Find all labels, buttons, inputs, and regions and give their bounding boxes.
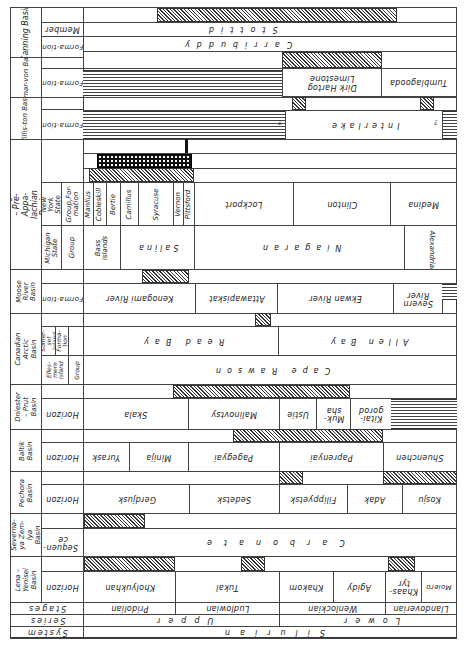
pechora-blank [41,471,84,485]
unit-filippyetsk: Filippyetsk [279,484,348,514]
unit-read-bay: Read Bay [83,326,279,356]
lacuna-lines [83,111,286,139]
canning-blank [41,7,84,23]
unit-bertie: Bertie [106,182,121,226]
baltic-sub: Horizon [41,442,84,472]
hiatus-hatch [282,52,382,68]
lacuna-lines [442,284,457,300]
unit-sedetsk: Sedetsk [189,484,280,514]
lacuna-lines [83,70,283,96]
hiatus-hatch [89,168,194,182]
basin-label-lena: Lena – Yenisei Basin [10,556,42,603]
severnaya-blank [41,513,84,529]
unit-muksha: Muk-sha [316,398,351,430]
unit-interlake: Interlake [285,110,443,140]
unit-shuenchen: Shuenchen [383,442,457,472]
lena-blank [41,556,84,572]
canning-sub-member: Member [41,22,84,37]
unit-attawapiskat: Attawapiskat [195,283,278,314]
marker-bar [185,139,188,154]
unit-cape-rawson: Cape Rawson [83,355,457,385]
unit-tumblagooda: Tumblagooda [381,68,457,97]
hiatus-hatch [255,313,271,326]
lacuna-lines [442,111,457,139]
williston-gap-row [83,97,457,111]
basin-label-carnarvon: Carnar-von Basin [10,57,42,98]
ny-state-label: New York State [41,182,62,226]
arctic-blank [41,313,84,327]
unit-kosju: Kosju [402,484,457,514]
unit-severn-river: Severn River [393,283,443,314]
unit-alexandrian: Alexandrian [404,225,457,270]
hiatus-hatch [241,557,265,571]
basin-label-moose: Moose River Basin [10,269,42,314]
hiatus-hatch [84,557,175,571]
unit-yurask: Yurask [83,442,130,472]
mi-col-label: Group [61,225,84,270]
carnarvon-gap-row [83,51,457,69]
unit-khakom: Khakom [279,571,334,603]
somerset-label: Somer-set Island [41,326,56,356]
severnaya-sub: Sequen-ce [41,528,84,557]
basin-label-severnaya: Severna-ya Zem-lya Basin [10,513,42,557]
williston-sub: Forma-tion [41,109,84,140]
unit-skala: Skala [83,398,189,430]
system-silurian: Silurian [83,626,457,639]
unit-ekwan-river: Ekwan River [277,283,394,314]
system-label: System [10,626,84,639]
uncertain-mark: ? [434,118,438,126]
michigan-blank [41,139,84,183]
unit-khaastyr: Khaas-tyr [385,571,422,603]
unit-ustie: Ustie [279,398,317,430]
hiatus-hatch [142,270,189,283]
unit-salina: Salina [120,225,195,270]
unit-pagegyai: Pagegyai [188,442,280,472]
unit-cobleskill: Cobleskill [93,182,107,226]
canning-sub-formation: Forma-tion [41,36,84,58]
hiatus-hatch [292,97,306,110]
basin-label-canning: Canning Basin [10,7,42,58]
unit-syracuse: Syracuse [138,182,174,226]
unit-allen-bay: Allen Bay [278,326,457,356]
hiatus-hatch [420,97,434,110]
unit-adak: Adak [347,484,403,514]
unit-agidy: Agidy [333,571,386,603]
hiatus-hatch [157,8,397,22]
dniester-blank [41,384,84,399]
unit-bass-islands: Bass Islands [83,225,121,270]
evaporite-pattern [97,154,192,168]
unit-tukal: Tukal [175,571,280,603]
hiatus-hatch [279,471,303,484]
uncertain-mark: ? [278,118,282,126]
baltic-blank [41,429,84,443]
unit-paprenyai: Paprenyai [279,442,384,472]
hiatus-hatch [84,514,145,528]
lena-sub: Horizon [41,571,84,603]
canning-member-row: Stottid [83,22,457,37]
carnarvon-sub: Forma-tion [41,68,84,98]
hiatus-hatch [173,385,350,398]
mi-state-label: Michigan State [41,225,62,270]
hiatus-hatch [388,557,415,571]
hiatus-hatch [383,471,457,484]
unit-minija: Minija [129,442,189,472]
pechora-sub: Horizon [41,484,84,514]
unit-malinovtsy: Malinovtsy [188,398,280,430]
moose-blank [41,269,84,284]
basin-label-williston: Willis-ton Basin [10,97,42,140]
unit-kitaigorod: Kitai-gorod [350,398,392,430]
unit-kholyukhan: Kholyukhan [83,571,176,603]
unit-clinton: Clinton [293,182,391,226]
unit-gerdjusk: Gerdjusk [83,484,190,514]
basin-label-pechora: Pechora Basin [10,471,42,514]
moose-gap-row [83,269,457,284]
moose-sub: Forma-tion [41,283,84,314]
basin-label-dniester: Dniester – Prut Basin [10,384,42,430]
ellesmere-col: Group [68,355,84,385]
unit-moiero: Moiero [421,571,457,603]
ny-col-label: Group,For-mation [61,182,84,226]
hiatus-hatch [233,429,383,442]
unit-carbonate: Carbonate [83,528,457,557]
lacuna-lines [391,399,457,429]
somerset-col: Forma-tion [55,326,69,356]
